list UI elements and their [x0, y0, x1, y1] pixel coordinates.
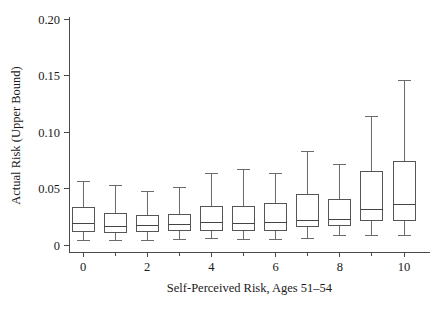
y-axis-tick-label: 0.20 — [38, 13, 60, 27]
y-axis-tick-label: 0.15 — [38, 69, 60, 83]
box-iqr-rect — [297, 194, 319, 227]
x-axis-tick-group: 0246810 — [80, 252, 410, 274]
box-iqr-rect — [104, 213, 126, 232]
box-plot-item — [72, 182, 94, 241]
box-iqr-rect — [361, 172, 383, 221]
box-iqr-rect — [233, 207, 255, 231]
box-iqr-rect — [72, 208, 94, 232]
box-iqr-rect — [168, 214, 190, 230]
y-axis-tick-group: 00.050.100.150.20 — [38, 13, 69, 253]
x-axis-tick-label: 8 — [337, 260, 343, 274]
box-plot-item — [329, 165, 351, 236]
y-axis-tick-label: 0.10 — [38, 126, 60, 140]
box-plot-item — [233, 169, 255, 239]
x-axis-tick-label: 6 — [272, 260, 278, 274]
box-plot-item — [200, 174, 222, 238]
box-iqr-rect — [265, 203, 287, 230]
y-axis-title: Actual Risk (Upper Bound) — [9, 66, 23, 205]
box-plot-item — [297, 151, 319, 238]
box-iqr-rect — [200, 207, 222, 231]
box-iqr-rect — [136, 216, 158, 232]
x-axis-title: Self-Perceived Risk, Ages 51–54 — [167, 281, 333, 295]
boxplot-canvas: 00.050.100.150.20 0246810 Self-Perceived… — [0, 0, 441, 311]
box-group — [72, 80, 415, 240]
x-axis-tick-label: 4 — [208, 260, 215, 274]
box-plot-item — [393, 80, 415, 236]
box-iqr-rect — [393, 161, 415, 220]
box-plot-item — [104, 185, 126, 240]
box-iqr-rect — [329, 200, 351, 226]
y-axis-tick-label: 0.05 — [38, 182, 60, 196]
box-plot-item — [136, 192, 158, 241]
y-axis-tick-label: 0 — [54, 239, 60, 253]
box-plot-item — [265, 174, 287, 240]
x-axis-tick-label: 10 — [398, 260, 411, 274]
x-axis-tick-label: 2 — [144, 260, 150, 274]
box-plot-item — [361, 116, 383, 236]
box-plot-item — [168, 187, 190, 239]
boxplot-figure: 00.050.100.150.20 0246810 Self-Perceived… — [0, 0, 441, 311]
x-axis-tick-label: 0 — [80, 260, 86, 274]
